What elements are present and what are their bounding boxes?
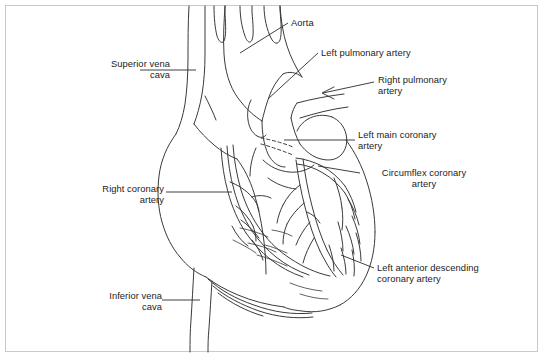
inferior-vena-cava-vessel xyxy=(190,268,212,352)
label-circumflex-coronary-artery: Circumflex coronary artery xyxy=(363,167,485,190)
leader-right-pulmonary-artery-arrow xyxy=(322,82,374,99)
label-inferior-vena-cava: Inferior vena cava xyxy=(50,290,162,313)
left-main-coronary-artery-vessel xyxy=(261,138,293,155)
label-right-coronary-artery: Right coronary artery xyxy=(44,183,164,206)
apex-shading xyxy=(290,283,328,299)
left-anterior-descending-artery xyxy=(296,159,343,277)
label-aorta: Aorta xyxy=(291,17,361,28)
atrioventricular-groove xyxy=(208,279,313,318)
right-atrium xyxy=(158,124,237,277)
right-ventricle-shading xyxy=(233,228,287,266)
label-superior-vena-cava: Superior vena cava xyxy=(54,58,170,81)
label-left-anterior-descending: Left anterior descending coronary artery xyxy=(377,262,535,285)
label-left-main-coronary-artery: Left main coronary artery xyxy=(358,129,488,152)
leader-left-anterior-descending xyxy=(341,255,374,268)
label-right-pulmonary-artery: Right pulmonary artery xyxy=(378,74,488,97)
left-atrium-appendage xyxy=(291,115,347,160)
leader-lines xyxy=(140,23,374,300)
right-pulmonary-artery-vessel xyxy=(291,94,348,118)
right-coronary-parallel-vein xyxy=(233,145,330,276)
interventricular-shading xyxy=(265,230,292,253)
label-left-pulmonary-artery: Left pulmonary artery xyxy=(321,47,461,58)
heart-anatomy-figure: Superior vena cava Aorta Left pulmonary … xyxy=(0,0,545,359)
leader-circumflex-coronary xyxy=(318,166,360,173)
